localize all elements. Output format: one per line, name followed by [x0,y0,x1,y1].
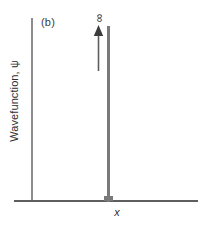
x-axis-title: x [0,206,204,218]
wavefunction-spike-base [104,196,113,201]
wavefunction-spike [107,26,110,202]
infinity-symbol: ∞ [91,10,107,26]
y-axis-title-container: Wavefunction, ψ [0,0,28,202]
panel-label: (b) [41,16,55,28]
infinity-glyph: ∞ [93,14,105,23]
wavefunction-plot-panel-b: (b) Wavefunction, ψ x ∞ [0,0,204,230]
y-axis-title: Wavefunction, ψ [8,60,20,142]
up-arrow-icon [92,25,105,71]
y-axis-line [31,18,33,202]
